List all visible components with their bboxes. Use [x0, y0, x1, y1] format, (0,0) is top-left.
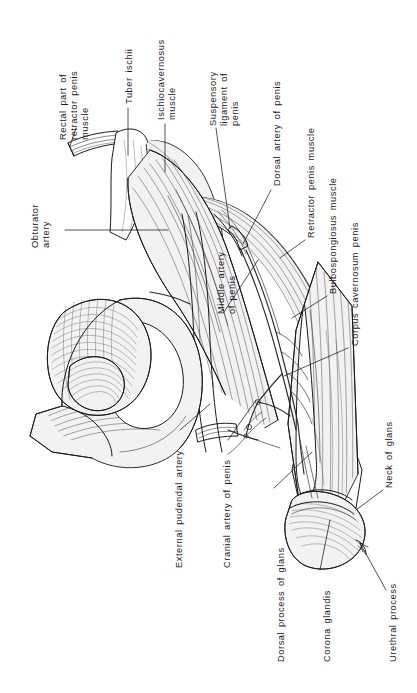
- arrowhead-urethral-process: [360, 543, 368, 552]
- tuber-ischii: [110, 129, 150, 240]
- label-cranial-artery-of-penis: Cranial artery of penis: [222, 460, 233, 568]
- label-retractor-penis-muscle: Retractor penis muscle: [306, 128, 317, 238]
- corpus-cavernosum-penis: [128, 150, 278, 440]
- corpus-internal-septa: [182, 212, 222, 452]
- pelvis-ischium: [30, 298, 202, 468]
- leader-urethral-process: [360, 543, 386, 590]
- leader-corona-glandis: [320, 520, 330, 570]
- suspensory-ligament-of-penis: [214, 210, 250, 256]
- ischiocavernosus-muscle: [146, 140, 224, 266]
- leader-cranial-artery: [228, 400, 256, 440]
- label-dorsal-artery-of-penis: Dorsal artery of penis: [272, 81, 283, 186]
- label-external-pudendal-artery: External pudendal artery: [174, 450, 185, 568]
- label-suspensory-ligament-of-penis: Suspensory ligament of penis: [208, 71, 242, 126]
- leader-corpus-cavernosum: [284, 348, 348, 376]
- glans-penis: [285, 490, 366, 569]
- leader-retractor-penis-muscle: [280, 240, 305, 258]
- label-ischiocavernosus-muscle: Ischiocavernosus muscle: [156, 39, 178, 120]
- label-urethral-process: Urethral process: [388, 583, 399, 662]
- leader-dorsal-artery: [243, 190, 271, 244]
- leader-suspensory-ligament: [216, 128, 230, 228]
- leader-neck-of-glans: [356, 490, 383, 510]
- label-neck-of-glans: Neck of glans: [384, 421, 395, 488]
- label-obturator-artery: Obturator artery: [30, 204, 52, 248]
- label-tuber-ischii: Tuber ischii: [124, 49, 135, 104]
- leader-dorsal-process: [274, 452, 312, 488]
- leader-external-pudendal: [180, 404, 210, 430]
- label-corona-glandis: Corona glandis: [322, 590, 333, 662]
- label-rectal-part-of-retractor-penis-muscle: Rectal part of retractor penis muscle: [58, 71, 92, 140]
- label-dorsal-process-of-glans: Dorsal process of glans: [276, 547, 287, 662]
- figure-canvas: Rectal part of retractor penis muscle Tu…: [0, 0, 417, 693]
- label-bulbospongiosus-muscle: Bulbospongiosus muscle: [328, 177, 339, 294]
- label-middle-artery-of-penis: Middle artery of penis: [216, 252, 238, 314]
- shaft-vessels: [300, 418, 324, 498]
- label-corpus-cavernosum-penis: Corpus cavernosum penis: [350, 222, 361, 346]
- leader-bulbospongiosus: [292, 296, 327, 318]
